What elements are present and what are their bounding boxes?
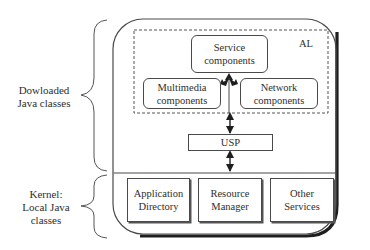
label-line: Kernel: xyxy=(14,188,78,201)
al-label: AL xyxy=(296,37,316,50)
usp-kernel-double-arrow-icon xyxy=(226,150,234,172)
box-text: Multimedia xyxy=(157,81,208,94)
brace-kernel-icon xyxy=(81,175,107,238)
box-text: Manager xyxy=(210,200,249,213)
box-text: components xyxy=(157,94,208,107)
network-components-box: Network components xyxy=(240,78,318,109)
box-text: Application xyxy=(134,187,184,200)
box-text: Directory xyxy=(134,200,184,213)
kernel-local-java-classes-label: Kernel: Local Java classes xyxy=(14,188,78,227)
label-line: Java classes xyxy=(8,97,80,110)
component-arrows-icon xyxy=(220,73,238,113)
downloaded-java-classes-label: Dowloaded Java classes xyxy=(8,84,80,110)
box-text: Services xyxy=(284,200,320,213)
box-text: components xyxy=(254,94,305,107)
other-services-box: Other Services xyxy=(270,178,334,222)
usp-box: USP xyxy=(188,134,273,151)
application-directory-box: Application Directory xyxy=(127,178,190,222)
brace-downloaded-icon xyxy=(81,20,107,171)
al-usp-double-arrow-icon xyxy=(226,112,234,134)
multimedia-components-box: Multimedia components xyxy=(143,78,221,109)
box-text: Network xyxy=(254,81,305,94)
box-text: Resource xyxy=(210,187,249,200)
box-text: Service xyxy=(204,41,255,54)
label-line: Dowloaded xyxy=(8,84,80,97)
box-text: USP xyxy=(221,136,240,149)
service-components-box: Service components xyxy=(191,35,268,73)
label-line: Local Java xyxy=(14,201,78,214)
box-text: Other xyxy=(284,187,320,200)
box-text: components xyxy=(204,54,255,67)
resource-manager-box: Resource Manager xyxy=(198,178,262,222)
label-line: classes xyxy=(14,214,78,227)
